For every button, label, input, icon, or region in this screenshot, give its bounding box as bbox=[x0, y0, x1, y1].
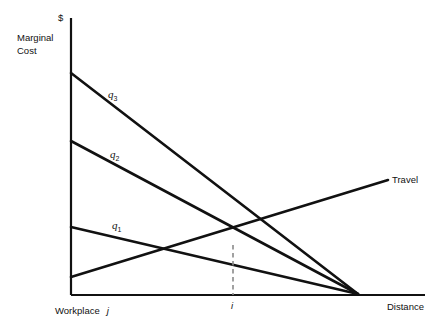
curve-label-q2: q2 bbox=[110, 148, 119, 165]
y-axis-currency-symbol: $ bbox=[58, 12, 63, 24]
x-origin-label-symbol: j bbox=[107, 305, 109, 316]
curve-label-travel: Travel bbox=[392, 174, 418, 186]
marginal-cost-distance-figure: $ Marginal Cost q3 q2 q1 Travel Distance… bbox=[0, 0, 448, 328]
figure-canvas bbox=[0, 0, 448, 328]
x-origin-label-text: Workplace bbox=[55, 305, 100, 316]
x-origin-label: Workplacej bbox=[55, 305, 109, 317]
curve-label-q1: q1 bbox=[112, 219, 121, 236]
x-tick-label-i: i bbox=[231, 300, 233, 312]
curve-label-q1-subscript: 1 bbox=[118, 226, 122, 233]
y-axis-title-line2: Cost bbox=[17, 44, 53, 57]
curve-label-q2-subscript: 2 bbox=[116, 155, 120, 162]
curve-label-q3: q3 bbox=[108, 88, 117, 105]
y-axis-title-line1: Marginal bbox=[17, 31, 53, 44]
curve-label-q3-subscript: 3 bbox=[114, 95, 118, 102]
x-axis-label: Distance bbox=[387, 301, 424, 313]
y-axis-title: Marginal Cost bbox=[17, 31, 53, 57]
